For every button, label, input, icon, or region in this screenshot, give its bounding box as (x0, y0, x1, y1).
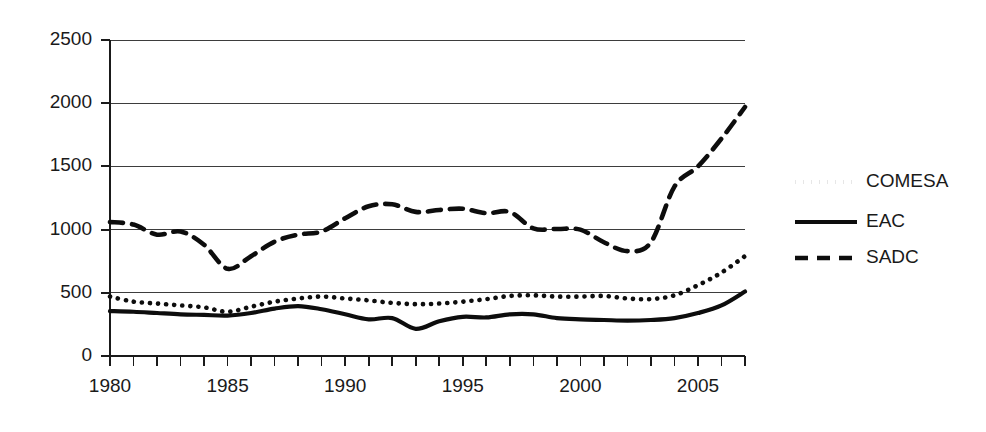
x-tick-label: 2005 (677, 375, 719, 396)
chart-legend: COMESAEACSADC (795, 170, 949, 267)
y-tick-label: 1500 (50, 154, 92, 175)
axes (101, 40, 745, 366)
x-tick-label: 1995 (442, 375, 484, 396)
x-tick-label: 1990 (324, 375, 366, 396)
legend-label: COMESA (866, 170, 949, 191)
series-line-sadc (110, 107, 745, 269)
x-axis-ticks (110, 356, 745, 366)
x-tick-label: 1980 (89, 375, 131, 396)
legend-item-sadc: SADC (795, 246, 919, 267)
y-tick-label: 2500 (50, 28, 92, 49)
line-chart: 05001000150020002500 1980198519901995200… (0, 0, 986, 432)
series-line-comesa (110, 256, 745, 312)
y-tick-label: 500 (60, 281, 92, 302)
legend-item-eac: EAC (795, 210, 905, 231)
gridlines (110, 40, 745, 293)
y-axis-tick-labels: 05001000150020002500 (50, 28, 92, 365)
y-tick-label: 0 (81, 344, 92, 365)
x-axis-tick-labels: 198019851990199520002005 (89, 375, 719, 396)
y-tick-label: 2000 (50, 91, 92, 112)
chart-container: 05001000150020002500 1980198519901995200… (0, 0, 986, 432)
x-tick-label: 2000 (559, 375, 601, 396)
legend-label: SADC (866, 246, 919, 267)
legend-item-comesa: COMESA (795, 170, 949, 191)
legend-label: EAC (866, 210, 905, 231)
data-series (110, 107, 745, 329)
y-tick-label: 1000 (50, 218, 92, 239)
x-tick-label: 1985 (206, 375, 248, 396)
